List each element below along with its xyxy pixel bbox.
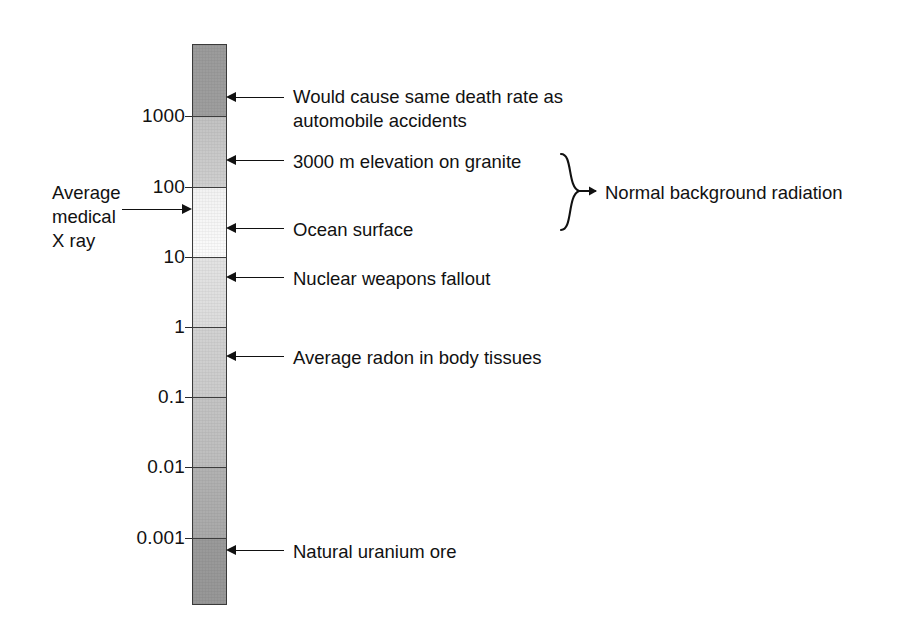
decade-separator	[192, 397, 227, 398]
ocean-surface-arrow	[226, 223, 284, 235]
radon-arrow	[226, 351, 284, 363]
axis-tick-mark	[185, 116, 192, 117]
death-rate-callout-label: Would cause same death rate as automobil…	[293, 85, 563, 133]
granite-elevation-arrow	[226, 155, 284, 167]
decade-separator	[192, 327, 227, 328]
decade-separator	[192, 538, 227, 539]
axis-tick-mark	[185, 397, 192, 398]
fallout-callout-label: Nuclear weapons fallout	[293, 267, 490, 291]
axis-tick-label: 100	[153, 177, 185, 196]
uranium-ore-callout-label: Natural uranium ore	[293, 540, 457, 564]
radon-callout-label: Average radon in body tissues	[293, 346, 542, 370]
fallout-arrow	[226, 272, 284, 284]
radiation-dose-scale-figure: 10001001010.10.010.001 Would cause same …	[0, 0, 900, 632]
ocean-surface-callout-label: Ocean surface	[293, 218, 413, 242]
medical-xray-callout-label: Average medical X ray	[52, 181, 142, 253]
granite-elevation-callout-label: 3000 m elevation on granite	[293, 150, 521, 174]
decade-separator	[192, 467, 227, 468]
curly-brace-icon	[553, 152, 599, 232]
normal-background-radiation-label: Normal background radiation	[605, 181, 843, 205]
axis-tick-label: 1000	[142, 106, 185, 125]
normal-background-brace	[553, 152, 599, 232]
decade-separator	[192, 257, 227, 258]
axis-tick-mark	[185, 327, 192, 328]
axis-tick-label: 0.1	[158, 387, 185, 406]
axis-tick-label: 1	[174, 317, 185, 336]
decade-separator	[192, 116, 227, 117]
axis-tick-label: 0.001	[136, 528, 185, 547]
decade-separator	[192, 187, 227, 188]
axis-tick-mark	[185, 538, 192, 539]
bar-paper-texture	[193, 45, 226, 604]
radiation-scale-bar	[192, 44, 227, 605]
axis-tick-label: 10	[163, 247, 185, 266]
axis-tick-mark	[185, 467, 192, 468]
axis-tick-mark	[185, 187, 192, 188]
uranium-ore-arrow	[226, 545, 284, 557]
death-rate-arrow	[226, 92, 284, 104]
axis-tick-mark	[185, 257, 192, 258]
axis-tick-label: 0.01	[147, 457, 185, 476]
